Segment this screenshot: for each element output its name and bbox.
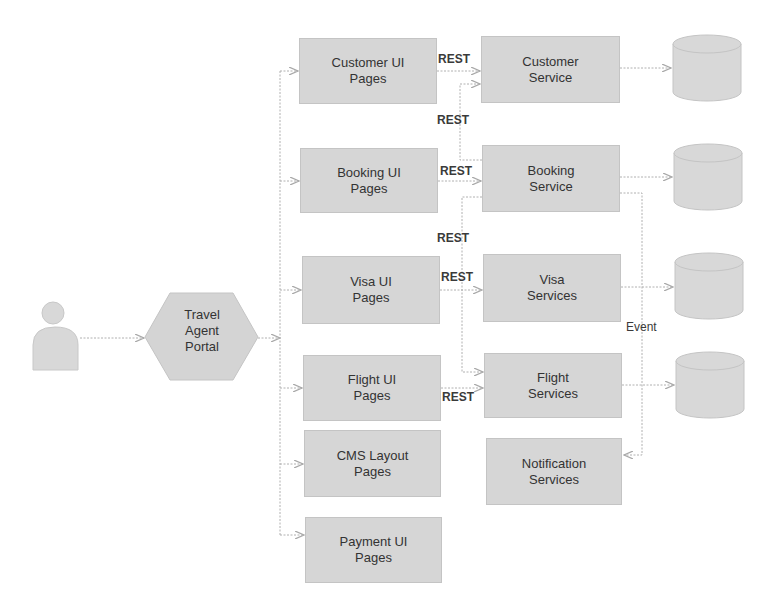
database-icon xyxy=(673,35,741,101)
flight-ui-pages-node[interactable]: Flight UI Pages xyxy=(303,355,441,421)
rest-label: REST xyxy=(438,52,470,66)
cms-layout-pages-node[interactable]: CMS Layout Pages xyxy=(304,430,441,497)
flight-services-node[interactable]: Flight Services xyxy=(484,353,622,418)
database-icon xyxy=(674,144,742,210)
rest-label: REST xyxy=(442,390,474,404)
user-icon xyxy=(33,302,78,370)
customer-service-node[interactable]: Customer Service xyxy=(481,36,620,103)
booking-ui-pages-node[interactable]: Booking UI Pages xyxy=(300,148,438,213)
rest-label: REST xyxy=(440,164,472,178)
travel-agent-portal-node[interactable]: Travel Agent Portal xyxy=(150,307,254,355)
rest-label: REST xyxy=(437,231,469,245)
booking-service-node[interactable]: Booking Service xyxy=(482,145,620,212)
database-icon xyxy=(676,352,744,418)
database-icon xyxy=(675,253,743,319)
notification-services-node[interactable]: Notification Services xyxy=(486,438,622,505)
payment-ui-pages-node[interactable]: Payment UI Pages xyxy=(305,517,442,583)
visa-services-node[interactable]: Visa Services xyxy=(483,254,621,322)
event-label: Event xyxy=(626,320,657,334)
customer-ui-pages-node[interactable]: Customer UI Pages xyxy=(299,38,437,104)
rest-label: REST xyxy=(441,270,473,284)
rest-label: REST xyxy=(437,113,469,127)
visa-ui-pages-node[interactable]: Visa UI Pages xyxy=(302,256,440,324)
